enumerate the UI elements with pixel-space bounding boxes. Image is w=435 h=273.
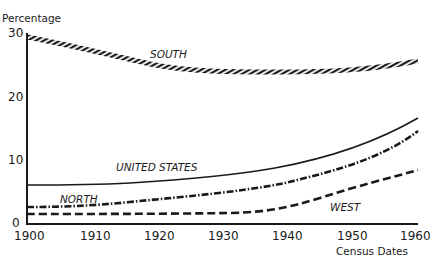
x-tick-1940: 1940 [272, 229, 303, 243]
y-tick-30: 30 [8, 26, 23, 40]
series-us-line [27, 118, 418, 185]
series-north-label: NORTH [60, 193, 98, 205]
y-tick-0: 0 [12, 216, 20, 230]
series-south-line [27, 37, 418, 72]
y-tick-20: 20 [8, 90, 23, 104]
x-axis-label: Census Dates [336, 245, 408, 257]
line-chart: Percentage 30 20 10 0 1900 1910 1920 193… [0, 0, 435, 273]
series-us-label: UNITED STATES [116, 161, 198, 173]
series-south-label: SOUTH [150, 48, 187, 60]
y-tick-10: 10 [8, 153, 23, 167]
x-tick-1900: 1900 [14, 229, 45, 243]
x-tick-1960: 1960 [400, 229, 431, 243]
x-tick-1910: 1910 [80, 229, 111, 243]
x-tick-1950: 1950 [337, 229, 368, 243]
y-axis-label: Percentage [2, 12, 61, 24]
series-west-label: WEST [330, 201, 362, 213]
x-tick-1930: 1930 [208, 229, 239, 243]
x-tick-1920: 1920 [144, 229, 175, 243]
